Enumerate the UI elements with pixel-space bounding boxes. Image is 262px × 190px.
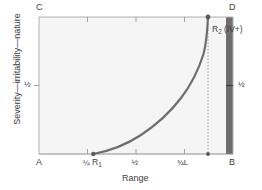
ytick-label-half-right: ½ <box>238 81 245 89</box>
corner-label-b: B <box>229 158 235 167</box>
chart-figure: C D A B ¼ ½ ¾L ½ ½ R1 R2 (IV+) Range Sev… <box>0 0 262 190</box>
x-axis-title: Range <box>122 174 149 183</box>
annotation-r2: R2 (IV+) <box>212 25 243 34</box>
point-r2-foot-marker <box>206 152 210 156</box>
point-r2-marker <box>206 15 211 20</box>
xtick-label-half: ½ <box>132 159 139 167</box>
annotation-r2-suffix: (IV+) <box>222 24 243 34</box>
y-axis-title: Severity—irritability—nature <box>12 0 22 144</box>
corner-label-a: A <box>36 158 42 167</box>
corner-label-d: D <box>229 3 236 12</box>
xtick-label-three-quarter-l: ¾L <box>177 159 188 167</box>
annotation-r1: R1 <box>92 158 102 167</box>
annotation-r2-subscript: 2 <box>218 28 222 35</box>
plot-area-background <box>39 17 233 154</box>
corner-label-c: C <box>36 3 43 12</box>
point-r1-marker <box>91 152 95 156</box>
y-axis-title-wrapper: Severity—irritability—nature <box>12 0 26 144</box>
annotation-r1-subscript: 1 <box>98 161 102 168</box>
xtick-label-quarter: ¼ <box>83 159 90 167</box>
